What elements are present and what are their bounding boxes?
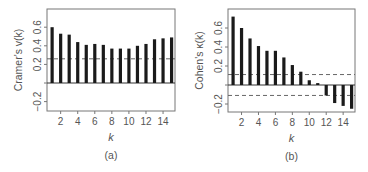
bar bbox=[119, 49, 122, 83]
bar bbox=[127, 49, 130, 83]
bar bbox=[291, 65, 294, 85]
bar bbox=[325, 85, 328, 95]
figure: 2468101214−0.20.20.40.6Cramer's v(k)k(a)… bbox=[0, 0, 368, 172]
figure-canvas: 2468101214−0.20.20.40.6Cramer's v(k)k(a)… bbox=[0, 0, 368, 172]
y-tick-label: 0.6 bbox=[32, 20, 43, 34]
bar bbox=[51, 27, 54, 83]
bar bbox=[248, 38, 251, 85]
x-tick-label: 8 bbox=[109, 116, 115, 127]
bar bbox=[333, 85, 336, 103]
bar bbox=[316, 83, 319, 85]
bar bbox=[59, 34, 62, 83]
x-tick-label: 6 bbox=[92, 116, 98, 127]
x-tick-label: 10 bbox=[123, 116, 135, 127]
x-tick-label: 12 bbox=[321, 117, 333, 128]
y-tick-label: −0.2 bbox=[213, 94, 224, 114]
x-tick-label: 4 bbox=[256, 117, 262, 128]
x-tick-label: 14 bbox=[157, 116, 169, 127]
y-axis-label: Cohen's κ(k) bbox=[193, 31, 205, 90]
x-tick-label: 2 bbox=[58, 116, 64, 127]
x-tick-label: 10 bbox=[304, 117, 316, 128]
x-tick-label: 4 bbox=[75, 116, 81, 127]
bar bbox=[93, 44, 96, 83]
panel-label: (b) bbox=[285, 150, 298, 162]
bar bbox=[136, 46, 139, 83]
bar bbox=[231, 17, 234, 85]
y-axis-label: Cramer's v(k) bbox=[12, 29, 24, 92]
bar bbox=[144, 44, 147, 83]
bar bbox=[350, 85, 353, 109]
bar bbox=[102, 45, 105, 83]
panel-label: (a) bbox=[105, 149, 118, 161]
bar bbox=[68, 35, 71, 83]
bar bbox=[274, 51, 277, 85]
x-axis-label: k bbox=[108, 131, 114, 143]
panel-cramers-v: 2468101214−0.20.20.40.6Cramer's v(k)k(a) bbox=[12, 9, 175, 161]
bar bbox=[170, 37, 173, 83]
bar bbox=[308, 80, 311, 85]
y-tick-label: 0.4 bbox=[213, 40, 224, 54]
panel-cohens-kappa: 2468101214−0.20.20.40.6Cohen's κ(k)k(b) bbox=[193, 9, 355, 162]
x-tick-label: 2 bbox=[239, 117, 245, 128]
y-tick-label: −0.2 bbox=[32, 91, 43, 111]
bar bbox=[342, 85, 345, 106]
y-tick-label: 0.6 bbox=[213, 21, 224, 35]
bar bbox=[257, 46, 260, 85]
x-axis-label: k bbox=[289, 132, 295, 144]
bar bbox=[299, 72, 302, 85]
bar bbox=[76, 42, 79, 83]
bar bbox=[85, 45, 88, 83]
bar bbox=[240, 28, 243, 85]
x-tick-label: 8 bbox=[290, 117, 296, 128]
bar bbox=[265, 51, 268, 85]
bar bbox=[282, 57, 285, 85]
bar bbox=[153, 39, 156, 83]
bar bbox=[110, 49, 113, 83]
bar bbox=[161, 38, 164, 83]
y-tick-label: 0.4 bbox=[32, 38, 43, 52]
x-tick-label: 12 bbox=[140, 116, 152, 127]
x-tick-label: 6 bbox=[273, 117, 279, 128]
x-tick-label: 14 bbox=[338, 117, 350, 128]
y-tick-label: 0.2 bbox=[32, 57, 43, 71]
y-tick-label: 0.2 bbox=[213, 59, 224, 73]
